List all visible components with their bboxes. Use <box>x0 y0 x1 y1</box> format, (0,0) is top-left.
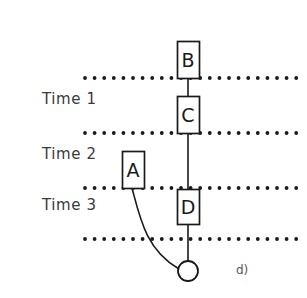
timeline-dot <box>170 131 174 135</box>
timeline-dot <box>266 237 270 241</box>
timeline-dot <box>160 237 164 241</box>
timeline-dot <box>294 131 298 135</box>
timeline-dot <box>227 186 231 190</box>
timeline-dot <box>246 131 250 135</box>
timeline-dot <box>266 76 270 80</box>
timeline-dot <box>112 131 116 135</box>
timeline-dot <box>285 186 289 190</box>
timeline-dot <box>208 76 212 80</box>
timeline-dot <box>246 186 250 190</box>
figure-panel-d: BCAD Time 1 Time 2 Time 3 d) <box>0 0 307 298</box>
time-label-1: Time 1 <box>42 92 97 107</box>
timeline-dot <box>218 237 222 241</box>
timeline-dot <box>170 76 174 80</box>
terminal-circle-group <box>178 261 198 281</box>
timeline-dot <box>294 237 298 241</box>
node-c: C <box>178 97 200 134</box>
timeline-dot <box>93 131 97 135</box>
node-a: A <box>123 152 145 189</box>
timeline-dot <box>275 186 279 190</box>
timeline-dot <box>227 131 231 135</box>
node-label-c: C <box>181 104 194 126</box>
timeline-dot <box>141 76 145 80</box>
node-d: D <box>178 190 200 225</box>
timeline-dot <box>227 237 231 241</box>
timeline-dot <box>83 131 87 135</box>
panel-label: d) <box>236 264 248 276</box>
timeline-dot <box>198 237 202 241</box>
timeline-dot <box>237 131 241 135</box>
node-label-b: B <box>181 49 194 71</box>
terminal-circle <box>178 261 198 281</box>
timeline-dot <box>131 76 135 80</box>
timeline-dot <box>237 186 241 190</box>
node-label-a: A <box>127 159 140 181</box>
timeline-dot <box>275 237 279 241</box>
timeline-dot <box>294 76 298 80</box>
timeline-dot <box>208 186 212 190</box>
timeline-dot <box>83 237 87 241</box>
timeline-dot <box>218 131 222 135</box>
timeline-dot <box>170 237 174 241</box>
timeline-dot <box>189 237 193 241</box>
timeline-dot <box>179 237 183 241</box>
timeline-dot <box>122 237 126 241</box>
timeline-dot <box>218 186 222 190</box>
node-b: B <box>178 42 200 79</box>
timeline-dot <box>150 131 154 135</box>
timeline-dot <box>102 237 106 241</box>
timeline-dot <box>237 237 241 241</box>
time-label-2: Time 2 <box>42 147 97 162</box>
timeline-dot <box>112 76 116 80</box>
timeline-dot <box>266 186 270 190</box>
timeline-dot <box>112 186 116 190</box>
curve-a-to-circle <box>132 188 179 269</box>
timeline-dot <box>285 131 289 135</box>
timeline-dot <box>160 186 164 190</box>
dotted-line-4 <box>83 237 298 241</box>
timeline-dot <box>160 131 164 135</box>
timeline-dot <box>112 237 116 241</box>
node-label-d: D <box>181 196 196 218</box>
timeline-dot <box>218 76 222 80</box>
timeline-dot <box>150 186 154 190</box>
timeline-dot <box>266 131 270 135</box>
timeline-dot <box>275 131 279 135</box>
timeline-dot <box>93 186 97 190</box>
timeline-dot <box>102 76 106 80</box>
timeline-dot <box>237 76 241 80</box>
timeline-dot <box>256 131 260 135</box>
timeline-dot <box>256 186 260 190</box>
timeline-dot <box>131 237 135 241</box>
timeline-dot <box>83 76 87 80</box>
timeline-dot <box>294 186 298 190</box>
timeline-dot <box>141 131 145 135</box>
timeline-dot <box>246 76 250 80</box>
timeline-dot <box>227 76 231 80</box>
timeline-dot <box>83 186 87 190</box>
timeline-dot <box>131 131 135 135</box>
timeline-dot <box>285 76 289 80</box>
timeline-dot <box>93 237 97 241</box>
timeline-dot <box>160 76 164 80</box>
timeline-dot <box>285 237 289 241</box>
timeline-dot <box>256 237 260 241</box>
timeline-dot <box>141 237 145 241</box>
timeline-dot <box>256 76 260 80</box>
timeline-dot <box>122 76 126 80</box>
timeline-dot <box>208 131 212 135</box>
timeline-dot <box>93 76 97 80</box>
timeline-dot <box>208 237 212 241</box>
timeline-dot <box>246 237 250 241</box>
time-label-3: Time 3 <box>42 198 97 213</box>
timeline-dot <box>170 186 174 190</box>
timeline-dot <box>275 76 279 80</box>
curve-group <box>132 188 179 269</box>
timeline-dot <box>102 131 106 135</box>
timeline-dot <box>150 76 154 80</box>
timeline-dot <box>122 131 126 135</box>
timeline-dot <box>102 186 106 190</box>
